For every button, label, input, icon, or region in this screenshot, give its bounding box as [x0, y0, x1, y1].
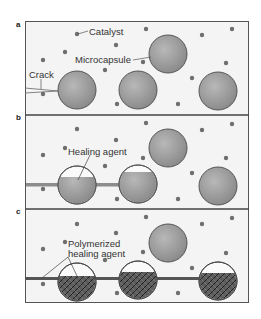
label-catalyst: Catalyst: [89, 26, 124, 37]
panel-label-c: c: [16, 207, 21, 216]
label-crack: Crack: [29, 69, 54, 80]
panel-label-a: a: [16, 20, 21, 29]
label-healing-agent-c: healing agent: [68, 248, 125, 259]
microcapsule: [58, 71, 96, 109]
microcapsule: [199, 72, 237, 110]
microcapsule: [199, 167, 237, 205]
panel-label-b: b: [16, 113, 21, 122]
label-healing-agent: Healing agent: [68, 146, 127, 157]
microcapsule: [119, 71, 157, 109]
label-microcapsule: Microcapsule: [75, 54, 131, 65]
microcapsule: [149, 35, 187, 73]
self-healing-diagram: a b c Catalyst Microcapsule Crack: [0, 0, 261, 319]
microcapsule: [149, 129, 187, 167]
microcapsule: [149, 224, 187, 262]
figure-frame: [26, 22, 249, 303]
